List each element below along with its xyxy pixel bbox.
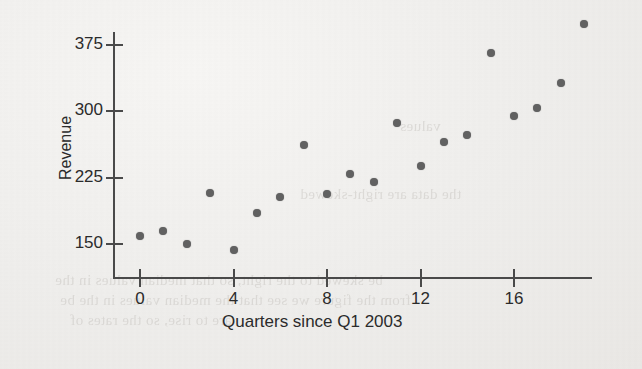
data-point [183, 240, 191, 248]
x-tick [139, 269, 141, 287]
x-tick-label: 8 [307, 289, 347, 309]
data-point [533, 104, 541, 112]
data-point [230, 246, 238, 254]
scatter-plot: 150225300375 0481216 Revenue Quarters si… [0, 0, 642, 369]
x-axis-label: Quarters since Q1 2003 [222, 312, 402, 332]
data-point [276, 193, 284, 201]
x-tick-label: 4 [214, 289, 254, 309]
data-point [206, 189, 214, 197]
x-tick [326, 269, 328, 287]
data-point [159, 227, 167, 235]
x-tick-label: 0 [120, 289, 160, 309]
y-axis-label: Revenue [57, 116, 75, 180]
y-tick [106, 177, 123, 179]
data-point [510, 112, 518, 120]
data-point [463, 131, 471, 139]
data-point [580, 20, 588, 28]
vertical-axis-line [113, 32, 115, 277]
x-tick [420, 269, 422, 287]
y-tick-label: 375 [70, 34, 103, 54]
y-tick [106, 243, 123, 245]
data-point [487, 49, 495, 57]
data-point [370, 178, 378, 186]
data-point [346, 170, 354, 178]
x-tick-label: 12 [401, 289, 441, 309]
data-point [253, 209, 261, 217]
y-tick-label: 150 [70, 233, 103, 253]
y-tick [106, 44, 123, 46]
x-tick [513, 269, 515, 287]
data-point [417, 162, 425, 170]
data-point [393, 119, 401, 127]
data-point [300, 141, 308, 149]
data-point [440, 138, 448, 146]
x-tick [233, 269, 235, 287]
data-point [557, 79, 565, 87]
data-point [136, 232, 144, 240]
x-tick-label: 16 [494, 289, 534, 309]
data-point [323, 190, 331, 198]
y-tick [106, 110, 123, 112]
horizontal-axis-line [113, 277, 592, 279]
